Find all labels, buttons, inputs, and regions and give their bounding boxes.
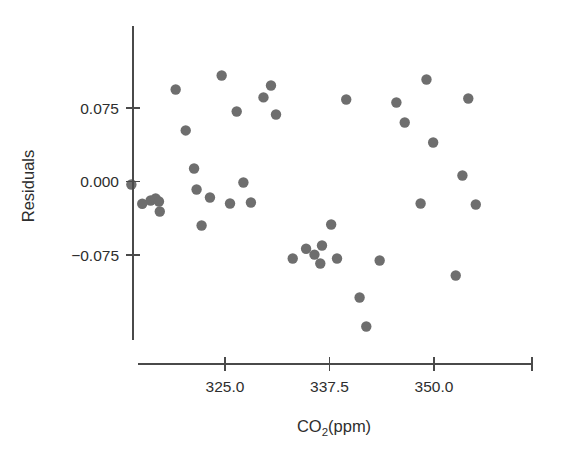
data-point xyxy=(266,80,276,90)
y-tick-label: 0.075 xyxy=(80,100,119,117)
data-point xyxy=(196,220,206,230)
data-point xyxy=(216,70,226,80)
data-point xyxy=(428,137,438,147)
chart-canvas: 325.0337.5350.00.0750.000−0.075Residuals… xyxy=(0,0,563,452)
data-point xyxy=(361,321,371,331)
data-point xyxy=(354,292,364,302)
data-point xyxy=(326,219,336,229)
scatter-plot-figure: 325.0337.5350.00.0750.000−0.075Residuals… xyxy=(0,0,563,452)
x-tick-label: 350.0 xyxy=(415,378,454,395)
data-point xyxy=(232,106,242,116)
data-point xyxy=(341,94,351,104)
data-point xyxy=(374,255,384,265)
data-point xyxy=(301,244,311,254)
data-point xyxy=(421,74,431,84)
x-tick-label: 325.0 xyxy=(206,378,245,395)
data-point xyxy=(471,199,481,209)
data-point xyxy=(332,253,342,263)
data-point xyxy=(225,198,235,208)
data-point xyxy=(238,177,248,187)
x-tick-label: 337.5 xyxy=(310,378,349,395)
data-point xyxy=(271,109,281,119)
data-point xyxy=(309,249,319,259)
data-point xyxy=(155,206,165,216)
data-point xyxy=(154,196,164,206)
data-point xyxy=(317,240,327,250)
y-tick-label: 0.000 xyxy=(80,173,119,190)
data-point xyxy=(191,184,201,194)
data-point xyxy=(170,84,180,94)
data-point xyxy=(415,198,425,208)
data-point xyxy=(189,163,199,173)
data-point xyxy=(246,197,256,207)
data-point xyxy=(315,258,325,268)
data-point xyxy=(451,270,461,280)
data-point xyxy=(258,92,268,102)
data-point xyxy=(181,125,191,135)
data-point xyxy=(400,117,410,127)
data-points-group xyxy=(126,70,481,331)
y-tick-label: −0.075 xyxy=(71,247,119,264)
data-point xyxy=(391,97,401,107)
y-axis-title: Residuals xyxy=(19,150,37,222)
data-point xyxy=(463,93,473,103)
axis-labels-group: 325.0337.5350.00.0750.000−0.075Residuals… xyxy=(19,100,454,439)
axes-group xyxy=(126,26,533,371)
x-axis-title: CO2(ppm) xyxy=(297,417,371,438)
data-point xyxy=(457,170,467,180)
data-point xyxy=(205,192,215,202)
data-point xyxy=(288,253,298,263)
